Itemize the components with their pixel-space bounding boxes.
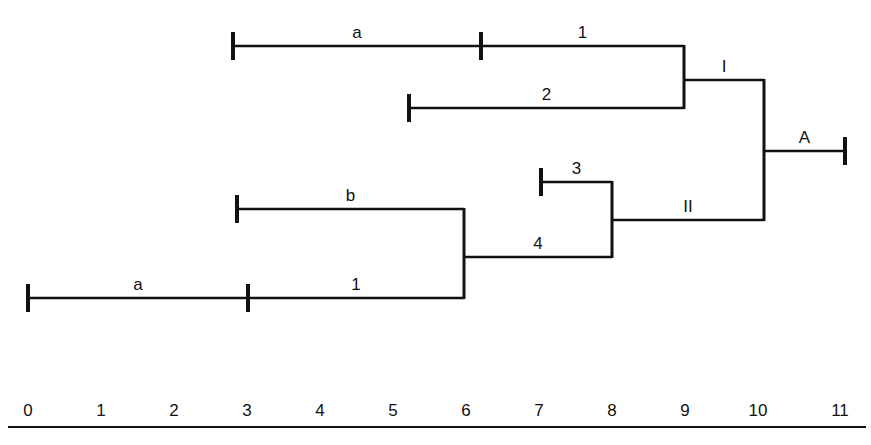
branch-label: 2: [542, 85, 551, 104]
branch-top-2: 2: [409, 85, 684, 122]
joins: [464, 45, 764, 299]
scale-axis: 01234567891011: [8, 401, 866, 427]
axis-tick-label: 11: [831, 401, 849, 420]
axis-tick-label: 5: [388, 401, 397, 420]
branch-label: I: [722, 57, 727, 76]
branch-label: b: [346, 186, 355, 205]
axis-tick-label: 8: [607, 401, 616, 420]
dendrogram: a12IAba143II 01234567891011: [0, 0, 871, 445]
branch-label: A: [799, 128, 811, 147]
branch-top-a: a: [233, 23, 481, 60]
branch-bot-1: 1: [248, 275, 464, 312]
axis-tick-label: 6: [461, 401, 470, 420]
branch-bot-b: b: [237, 186, 464, 223]
branch-3: 3: [541, 159, 612, 196]
branch-I: I: [684, 57, 764, 80]
axis-tick-label: 1: [96, 401, 105, 420]
axis-tick-label: 4: [315, 401, 324, 420]
branches: a12IAba143II: [28, 23, 845, 312]
branch-label: 1: [351, 275, 360, 294]
branch-II: II: [612, 197, 764, 220]
axis-tick-label: 0: [23, 401, 32, 420]
branch-bot-a: a: [28, 275, 248, 312]
axis-tick-label: 2: [169, 401, 178, 420]
branch-label: a: [352, 23, 362, 42]
branch-label: 3: [572, 159, 581, 178]
branch-top-1: 1: [481, 23, 684, 60]
branch-label: II: [683, 197, 692, 216]
axis-tick-label: 10: [749, 401, 768, 420]
branch-A: A: [764, 128, 845, 165]
branch-label: 4: [533, 234, 542, 253]
axis-tick-label: 9: [680, 401, 689, 420]
branch-4: 4: [464, 234, 612, 257]
branch-label: 1: [578, 23, 587, 42]
axis-tick-label: 7: [534, 401, 543, 420]
axis-tick-label: 3: [242, 401, 251, 420]
branch-label: a: [133, 275, 143, 294]
